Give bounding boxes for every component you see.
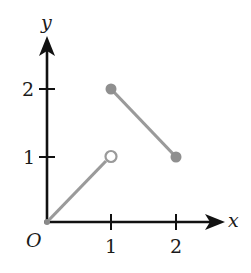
closed-point-2-1 [171, 152, 182, 163]
segment-1 [47, 161, 106, 222]
y-tick-label-1: 1 [23, 146, 35, 168]
closed-point-1-2 [106, 84, 117, 95]
closed-point-origin [44, 219, 50, 225]
piecewise-function-graph: y x O 1 2 1 2 [0, 0, 251, 273]
x-tick-label-2: 2 [170, 235, 182, 257]
open-point-1-1 [106, 151, 117, 162]
graph-canvas: y x O 1 2 1 2 [0, 0, 251, 273]
segment-2 [111, 89, 176, 157]
x-tick-label-1: 1 [105, 235, 117, 257]
y-axis-label: y [40, 11, 52, 33]
origin-label: O [26, 229, 42, 251]
y-tick-label-2: 2 [22, 78, 34, 100]
x-axis-label: x [228, 209, 239, 231]
